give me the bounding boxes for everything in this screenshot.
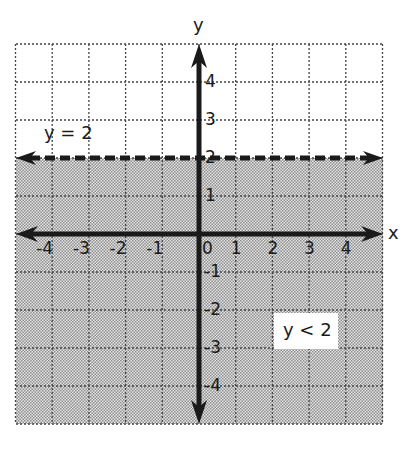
y-tick-label: 3 xyxy=(205,111,216,128)
y-tick-label: -4 xyxy=(204,377,221,394)
x-tick-label: -4 xyxy=(36,240,53,257)
y-tick-label: 4 xyxy=(205,73,216,90)
x-tick-label: -2 xyxy=(110,240,127,257)
y-axis-label: y xyxy=(193,16,204,34)
x-tick-label: 2 xyxy=(267,240,278,257)
y-tick-label: -1 xyxy=(204,263,221,280)
x-axis-label: x xyxy=(388,224,399,242)
y-tick-label: -3 xyxy=(204,339,221,356)
inequality-graph: y x y = 2 y < 2 -4-3-2-1012344321-1-2-3-… xyxy=(0,0,407,450)
x-tick-label: -3 xyxy=(73,240,90,257)
y-tick-label: 1 xyxy=(205,187,216,204)
x-tick-label: 1 xyxy=(231,240,242,257)
origin-label: 0 xyxy=(202,240,213,257)
y-tick-label: -2 xyxy=(204,301,221,318)
boundary-label: y = 2 xyxy=(44,124,93,142)
y-tick-label: 2 xyxy=(205,149,216,166)
region-label: y < 2 xyxy=(283,321,332,339)
x-tick-label: -1 xyxy=(146,240,163,257)
x-tick-label: 4 xyxy=(341,240,352,257)
x-tick-label: 3 xyxy=(304,240,315,257)
